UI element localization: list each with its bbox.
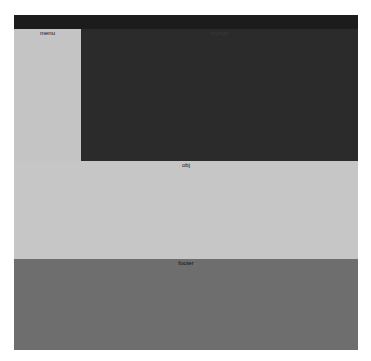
top-bar (14, 15, 358, 29)
lounge-label: lounge (81, 30, 358, 37)
footer-region: footer (14, 259, 358, 350)
obj-label: obj (14, 162, 358, 169)
layout-wireframe: menu lounge obj footer (14, 15, 358, 350)
footer-label: footer (14, 260, 358, 267)
menu-region: menu (14, 29, 81, 161)
obj-region: obj (14, 161, 358, 259)
lounge-region: lounge (81, 29, 358, 161)
menu-label: menu (14, 30, 81, 37)
